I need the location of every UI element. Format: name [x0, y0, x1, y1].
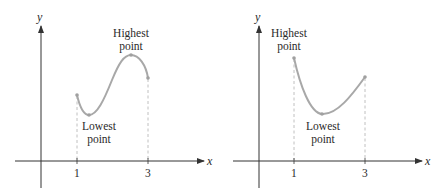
right-tick-3-label: 3	[362, 167, 368, 179]
right-curve	[294, 58, 365, 114]
right-highest-label-line1: Highest	[271, 27, 308, 40]
left-x-axis-label: x	[206, 154, 213, 168]
left-highest-label-line2: point	[119, 40, 143, 53]
left-y-axis-label: y	[36, 10, 43, 24]
left-lowest-label-line2: point	[87, 133, 111, 146]
left-tick-3-label: 3	[145, 167, 151, 179]
right-graph: y x 1 3 Highest point Lowest point	[233, 10, 431, 188]
left-graph: y x 1 3 Highest point Lowest point	[15, 10, 213, 188]
left-highest-point	[129, 53, 133, 57]
left-lowest-label-line1: Lowest	[82, 120, 117, 132]
left-start-point	[75, 93, 79, 97]
extrema-diagram: y x 1 3 Highest point Lowest point y x 1…	[0, 0, 437, 194]
left-tick-1-label: 1	[74, 167, 80, 179]
left-end-point	[146, 76, 150, 80]
right-lowest-label-line2: point	[311, 133, 335, 146]
right-tick-1-label: 1	[291, 167, 297, 179]
left-lowest-point	[87, 113, 91, 117]
left-curve	[77, 55, 148, 115]
right-lowest-label-line1: Lowest	[306, 120, 341, 132]
left-highest-label-line1: Highest	[113, 27, 150, 40]
right-y-axis-label: y	[254, 10, 261, 24]
right-lowest-point	[320, 112, 324, 116]
right-highest-label-line2: point	[277, 40, 301, 53]
right-x-axis-label: x	[424, 154, 431, 168]
right-highest-point	[292, 56, 296, 60]
right-end-point	[363, 75, 367, 79]
